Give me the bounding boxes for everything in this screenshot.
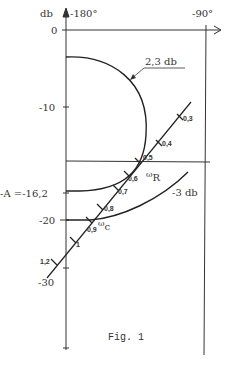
freq-0-8: 0,8 [104,205,114,213]
freq-0-4: 0,4 [162,140,172,148]
freq-1-2: 1,2 [40,258,50,266]
curve-minus-3-db [66,172,188,220]
y-axis-arrow [63,8,69,17]
nichols-chart: db -180° -90° 0 -10 -20 -30 -A =-16,2 2,… [0,0,227,373]
freq-0-6: 0,6 [128,175,138,183]
curve-label-minus-3-db: -3 db [172,187,198,198]
y-tick-minus-20: -20 [39,215,55,226]
freq-1: 1 [76,241,80,248]
y-tick-0: 0 [51,25,57,36]
curve-label-2-3-db: 2,3 db [145,56,177,67]
omega-c-label: ωc [98,219,111,232]
omega-r-label: ωR [146,170,161,183]
y-tick-minus-30: -30 [38,277,54,288]
freq-0-9: 0,9 [87,226,97,234]
x-label-left: -180° [70,8,97,19]
y-unit-label: db [40,8,53,19]
freq-0-7: 0,7 [118,188,128,196]
freq-0-5: 0,5 [143,154,153,162]
x-label-right: -90° [192,8,213,19]
freq-0-3: 0,3 [183,115,193,123]
special-level-label: -A =-16,2 [0,188,48,199]
figure-caption: Fig. 1 [108,332,144,343]
y-tick-minus-10: -10 [39,102,55,113]
right-vertical-90 [204,25,206,355]
